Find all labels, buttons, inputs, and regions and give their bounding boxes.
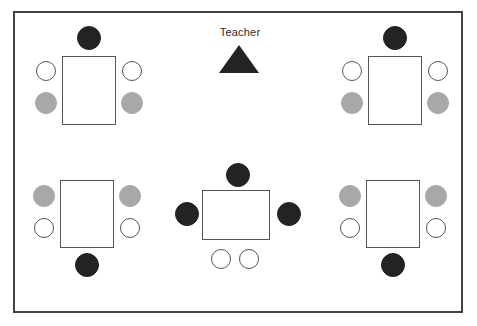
- group-center-table[interactable]: [202, 190, 270, 240]
- c-seat-right[interactable]: [277, 202, 301, 226]
- c-seat-top[interactable]: [226, 163, 250, 187]
- c-seat-left[interactable]: [175, 202, 199, 226]
- c-seat-bottom-right[interactable]: [239, 249, 259, 269]
- classroom-diagram: Teacher: [0, 0, 477, 326]
- group-center: [0, 0, 477, 326]
- c-seat-bottom-left[interactable]: [211, 249, 231, 269]
